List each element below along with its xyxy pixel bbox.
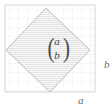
vector-component-b: b xyxy=(54,49,60,61)
geometry-figure: ( a b ) b a xyxy=(0,0,110,106)
vector-component-a: a xyxy=(54,35,60,47)
axis-label-a: a xyxy=(78,94,84,106)
vector-close-paren: ) xyxy=(63,33,70,63)
figure-canvas: ( a b ) b a xyxy=(0,0,110,106)
axis-label-b: b xyxy=(104,58,110,70)
